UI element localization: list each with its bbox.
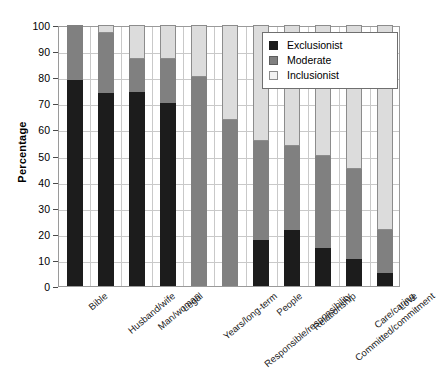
gridline-vertical	[121, 27, 122, 286]
bar-segment-exclusionist	[346, 259, 362, 286]
bar-segment-moderate	[191, 77, 207, 286]
bar-segment-exclusionist	[315, 248, 331, 286]
x-axis-tick-label: Relationship	[311, 291, 357, 332]
x-axis-tick-label: Legal	[180, 291, 204, 314]
y-axis-tick-label: 100	[28, 21, 50, 31]
bar-stack	[222, 25, 238, 286]
bar-segment-inclusionist	[160, 25, 176, 59]
y-axis-tick-label: 70	[28, 99, 50, 109]
bar-segment-exclusionist	[129, 92, 145, 286]
bar-segment-exclusionist	[284, 230, 300, 286]
y-axis-tick	[53, 287, 58, 288]
bar-segment-moderate	[160, 59, 176, 103]
bar-segment-moderate	[315, 156, 331, 249]
y-axis-tick-label: 20	[28, 230, 50, 240]
legend-item: Inclusionist	[269, 68, 391, 82]
bar-stack	[129, 25, 145, 286]
legend-label: Moderate	[287, 55, 331, 66]
gridline-vertical	[152, 27, 153, 286]
legend-item: Exclusionist	[269, 38, 391, 52]
legend-label: Inclusionist	[287, 70, 339, 81]
bar-segment-exclusionist	[377, 273, 393, 286]
gridline-vertical	[90, 27, 91, 286]
bar-segment-moderate	[98, 33, 114, 93]
x-axis-tick-label: Bible	[87, 291, 110, 312]
gridline-vertical	[246, 27, 247, 286]
bar-stack	[98, 25, 114, 286]
y-axis-tick-label: 0	[28, 282, 50, 292]
bar-segment-inclusionist	[191, 25, 207, 77]
bar-segment-moderate	[253, 141, 269, 240]
chart-legend: ExclusionistModerateInclusionist	[262, 32, 398, 89]
bar-stack	[67, 25, 83, 286]
y-axis-tick-label: 80	[28, 73, 50, 83]
y-axis-tick-label: 50	[28, 152, 50, 162]
bar-segment-inclusionist	[222, 25, 238, 120]
legend-swatch-exclusionist-icon	[269, 41, 278, 50]
y-axis-tick-label: 10	[28, 256, 50, 266]
bar-segment-moderate	[129, 59, 145, 92]
legend-swatch-inclusionist-icon	[269, 71, 278, 80]
y-axis-tick-label: 90	[28, 47, 50, 57]
bar-segment-inclusionist	[129, 25, 145, 59]
bar-segment-moderate	[346, 169, 362, 259]
bar-segment-inclusionist	[98, 25, 114, 33]
y-axis-tick-label: 40	[28, 178, 50, 188]
legend-item: Moderate	[269, 53, 391, 67]
bar-segment-moderate	[222, 120, 238, 286]
legend-label: Exclusionist	[287, 40, 342, 51]
bar-segment-exclusionist	[160, 103, 176, 286]
x-axis-tick-label: People	[275, 291, 304, 318]
bar-stack	[160, 25, 176, 286]
y-axis-tick-label: 30	[28, 204, 50, 214]
gridline-vertical	[183, 27, 184, 286]
bar-segment-moderate	[377, 230, 393, 273]
bar-segment-moderate	[284, 146, 300, 230]
bar-stack	[191, 25, 207, 286]
legend-swatch-moderate-icon	[269, 56, 278, 65]
bar-segment-exclusionist	[67, 80, 83, 286]
bar-segment-exclusionist	[98, 93, 114, 286]
y-axis-tick-label: 60	[28, 125, 50, 135]
x-axis-tick-label: Years/long-term	[222, 291, 280, 342]
bar-segment-moderate	[67, 25, 83, 80]
bar-segment-exclusionist	[253, 240, 269, 286]
gridline-vertical	[214, 27, 215, 286]
